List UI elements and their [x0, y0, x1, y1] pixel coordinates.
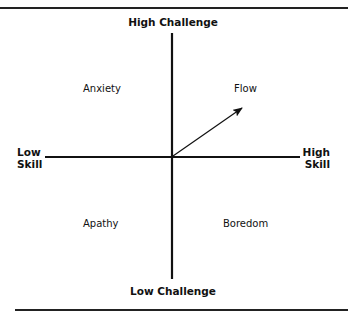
quadrant-flow: Flow: [234, 83, 257, 95]
high-skill-line2: Skill: [300, 158, 330, 170]
low-challenge-label: Low Challenge: [130, 285, 216, 297]
high-challenge-label: High Challenge: [128, 16, 218, 28]
high-skill-line1: High: [300, 146, 330, 158]
quadrant-boredom: Boredom: [223, 218, 268, 230]
axes-graphic: [0, 0, 348, 315]
quadrant-apathy: Apathy: [83, 218, 119, 230]
low-skill-line1: Low: [17, 146, 42, 158]
low-skill-line2: Skill: [17, 158, 42, 170]
quadrant-anxiety: Anxiety: [83, 83, 121, 95]
low-skill-label: Low Skill: [17, 146, 42, 170]
high-skill-label: High Skill: [300, 146, 330, 170]
flow-arrow: [173, 108, 242, 156]
